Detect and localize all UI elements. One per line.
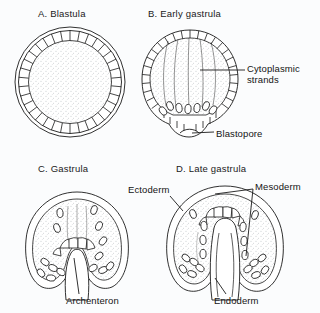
figure-drawing	[0, 0, 320, 313]
label-endoderm: Endoderm	[214, 296, 259, 307]
label-mesoderm: Mesoderm	[255, 182, 301, 193]
panel-b-early-gastrula	[142, 30, 238, 137]
embryo-development-figure: A. Blastula B. Early gastrula C. Gastrul…	[0, 0, 320, 313]
cytoplasmic-strands-line1: Cytoplasmic	[247, 64, 300, 75]
panel-d-late-gastrula	[167, 186, 284, 300]
panel-a-blastula	[15, 27, 125, 137]
panel-title-a: A. Blastula	[38, 8, 86, 19]
panel-title-b: B. Early gastrula	[148, 8, 221, 19]
label-archenteron: Archenteron	[66, 296, 119, 307]
label-blastopore: Blastopore	[216, 129, 262, 140]
panel-title-d: D. Late gastrula	[176, 163, 246, 174]
panel-title-c: C. Gastrula	[38, 163, 88, 174]
panel-c-gastrula	[26, 192, 129, 300]
label-ectoderm: Ectoderm	[128, 185, 169, 196]
label-cytoplasmic-strands: Cytoplasmic strands	[247, 64, 300, 85]
leader-ectoderm	[170, 196, 183, 211]
cytoplasmic-strands-line2: strands	[247, 75, 300, 86]
